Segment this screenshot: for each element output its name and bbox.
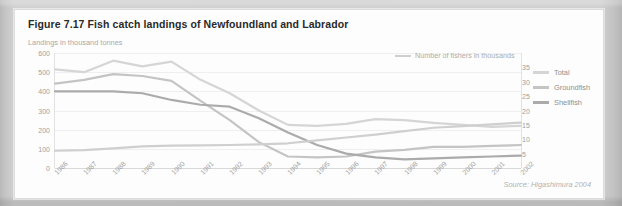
legend-item-total[interactable]: Total: [533, 65, 601, 80]
y-tick-label: 400: [38, 88, 50, 95]
y-axis-caption: Landings in thousand tonnes: [28, 38, 123, 47]
legend-item-label: Total: [554, 68, 570, 77]
chart-plot-wrapper: 6005004003002001000 3530252015105 198619…: [28, 48, 588, 196]
y-tick-label: 0: [46, 165, 50, 172]
y2-tick-label: 15: [522, 121, 530, 128]
series-lines: [55, 53, 521, 168]
legend-item-label: Shellfish: [554, 98, 582, 107]
y2-tick-label: 25: [522, 93, 530, 100]
y2-tick-label: 5: [522, 150, 526, 157]
legend-item-shellfish[interactable]: Shellfish: [533, 95, 601, 110]
y2-tick-label: 30: [522, 78, 530, 85]
figure-card: Figure 7.17 Fish catch landings of Newfo…: [14, 9, 604, 199]
y2-tick-label: 10: [522, 136, 530, 143]
page-title: Figure 7.17 Fish catch landings of Newfo…: [28, 18, 348, 30]
x-axis: 1986198719881989199019911992199319941995…: [54, 169, 520, 195]
legend-item-label: Groundfish: [554, 83, 590, 92]
y-axis-left: 6005004003002001000: [28, 53, 50, 168]
fishers-annotation-label: Number of fishers in thousands: [415, 51, 514, 60]
source-note: Source: Higashimura 2004: [503, 180, 591, 189]
series-line: [55, 74, 521, 157]
y-tick-label: 200: [38, 126, 50, 133]
fishers-line-swatch: [395, 55, 411, 57]
legend-swatch: [533, 71, 549, 73]
fishers-annotation: Number of fishers in thousands: [395, 51, 514, 60]
legend-item-groundfish[interactable]: Groundfish: [533, 80, 601, 95]
legend-swatch: [533, 101, 549, 103]
series-line: [55, 61, 521, 127]
y2-tick-label: 20: [522, 107, 530, 114]
y2-tick-label: 35: [522, 64, 530, 71]
chart-legend: TotalGroundfishShellfish: [533, 65, 601, 110]
y-tick-label: 300: [38, 107, 50, 114]
y-tick-label: 600: [38, 50, 50, 57]
y-tick-label: 500: [38, 69, 50, 76]
y-tick-label: 100: [38, 145, 50, 152]
legend-swatch: [533, 86, 549, 88]
plot-area: [54, 53, 522, 168]
